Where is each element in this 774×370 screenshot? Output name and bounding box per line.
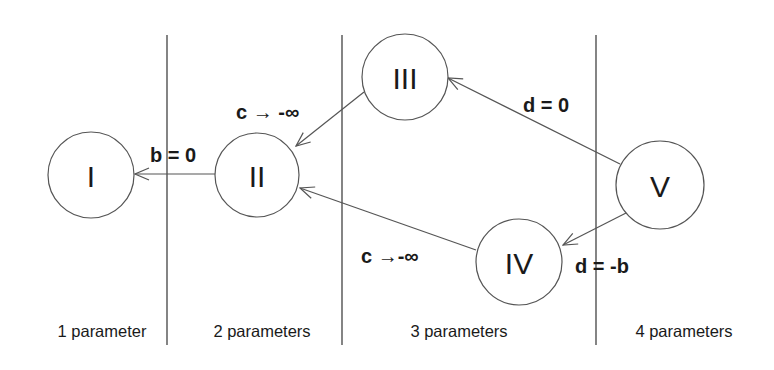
edge-label-c-to-neg-inf-upper: c → -∞: [236, 101, 299, 123]
region-label-3-parameters: 3 parameters: [410, 322, 507, 340]
edge-label-b-equals-0: b = 0: [150, 144, 196, 166]
node-II-label: II: [249, 160, 266, 193]
edge-label-c-to-neg-inf-lower: c →-∞: [361, 245, 419, 267]
edge-IV-to-II: [300, 188, 476, 250]
edge-label-d-equals-neg-b: d = -b: [575, 255, 629, 277]
region-label-2-parameters: 2 parameters: [213, 322, 310, 340]
edge-label-d-equals-0: d = 0: [523, 94, 569, 116]
node-V-label: V: [650, 170, 670, 203]
parameter-reduction-diagram: I II III IV V b = 0 c → -∞ c →-∞ d = 0 d…: [0, 0, 774, 370]
edge-III-to-II: [296, 92, 364, 146]
node-III: III: [362, 34, 448, 120]
node-IV-label: IV: [505, 247, 533, 280]
region-label-1-parameter: 1 parameter: [58, 322, 147, 340]
node-IV: IV: [476, 219, 562, 305]
node-V: V: [616, 141, 704, 229]
node-I: I: [48, 132, 134, 218]
region-label-4-parameters: 4 parameters: [635, 322, 732, 340]
node-II: II: [215, 133, 299, 217]
edge-V-to-III: [448, 78, 620, 164]
node-III-label: III: [392, 62, 417, 95]
node-I-label: I: [87, 160, 95, 193]
